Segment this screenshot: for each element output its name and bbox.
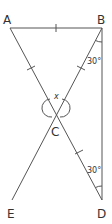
- tick-bc: [77, 66, 85, 70]
- label-b: B: [97, 13, 105, 27]
- angle-arc-b: [96, 41, 103, 43]
- angle-arc-c-right: [60, 99, 70, 117]
- label-c: C: [51, 125, 59, 139]
- angle-label-x: x: [53, 92, 59, 101]
- geometry-diagram: A B C E D 30° 30° x: [0, 0, 112, 224]
- angle-arc-d: [96, 186, 103, 188]
- label-e: E: [7, 207, 15, 221]
- label-a: A: [3, 13, 12, 27]
- label-d: D: [97, 207, 106, 221]
- angle-label-d: 30°: [87, 166, 101, 175]
- angle-arc-c-left: [42, 99, 52, 117]
- angle-label-b: 30°: [87, 57, 101, 66]
